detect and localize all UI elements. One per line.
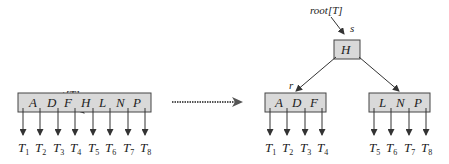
subtree-label: T6 xyxy=(105,140,116,157)
root-pointer-label: root[T] xyxy=(310,4,343,16)
key: F xyxy=(309,95,319,110)
key: F xyxy=(63,95,73,110)
after-tree: root[T] s H r A D F L N P T1 T2 T3 xyxy=(265,4,432,157)
subtree-label: T4 xyxy=(70,140,81,157)
node-label-r: r xyxy=(289,79,294,91)
b-tree-split-diagram: root[T] r A D F H L N P T1 T2 T3 T4 xyxy=(0,0,449,164)
key: A xyxy=(274,95,283,110)
key: P xyxy=(132,95,141,110)
subtree-label: T5 xyxy=(369,140,380,157)
key: N xyxy=(115,95,126,110)
subtree-label: T2 xyxy=(282,140,293,157)
subtree-label: T3 xyxy=(300,140,311,157)
subtree-label: T7 xyxy=(123,140,134,157)
subtree-label: T1 xyxy=(18,140,29,157)
key: H xyxy=(80,95,91,110)
subtree-label: T6 xyxy=(386,140,397,157)
key: D xyxy=(291,95,302,110)
node-label-s: s xyxy=(350,22,354,34)
key: A xyxy=(28,95,37,110)
subtree-label: T8 xyxy=(140,140,151,157)
key: N xyxy=(395,95,406,110)
subtree-label: T2 xyxy=(35,140,46,157)
right-child-pointer xyxy=(359,57,399,91)
subtree-label: T3 xyxy=(53,140,64,157)
subtree-labels: T1 T2 T3 T4 T5 T6 T7 T8 xyxy=(265,140,432,157)
subtree-label: T8 xyxy=(421,140,432,157)
key: L xyxy=(378,95,386,110)
before-tree: root[T] r A D F H L N P T1 T2 T3 T4 xyxy=(18,88,151,157)
subtree-label: T7 xyxy=(404,140,415,157)
subtree-label: T4 xyxy=(317,140,328,157)
key: D xyxy=(46,95,57,110)
subtree-label: T1 xyxy=(265,140,276,157)
key: P xyxy=(413,95,422,110)
root-pointer-arrow xyxy=(331,17,344,34)
key: H xyxy=(340,42,351,57)
key: L xyxy=(98,95,106,110)
subtree-label: T5 xyxy=(88,140,99,157)
left-child-pointer xyxy=(296,57,336,91)
transition-arrow-icon xyxy=(172,97,243,107)
subtree-labels: T1 T2 T3 T4 T5 T6 T7 T8 xyxy=(18,140,151,157)
